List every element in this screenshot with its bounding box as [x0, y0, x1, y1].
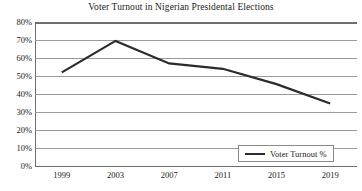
y-axis-tick-label: 30% — [1, 107, 32, 117]
x-axis-tick-label: 1999 — [53, 170, 70, 180]
y-axis-tick-label: 0% — [1, 161, 32, 171]
x-axis-tick-label: 2003 — [107, 170, 124, 180]
x-axis-tick-label: 2007 — [161, 170, 178, 180]
y-axis-tick-label: 50% — [1, 71, 32, 81]
y-axis-tick-labels: 80%70%60%50%40%30%20%10%0% — [0, 22, 32, 166]
x-axis-tick-label: 2011 — [214, 170, 231, 180]
chart-title: Voter Turnout in Nigerian Presidental El… — [0, 2, 362, 12]
x-axis-tick-label: 2019 — [322, 170, 339, 180]
y-axis-tick-label: 80% — [1, 17, 32, 27]
chart-container: Voter Turnout in Nigerian Presidental El… — [0, 0, 362, 191]
y-axis-tick-label: 70% — [1, 35, 32, 45]
y-axis-tick-label: 40% — [1, 89, 32, 99]
gridline — [35, 166, 357, 167]
x-axis-tick-labels: 199920032007201120152019 — [35, 170, 357, 184]
y-axis-tick-label: 20% — [1, 125, 32, 135]
legend-label: Voter Turnout % — [270, 149, 327, 159]
x-axis-tick-label: 2015 — [268, 170, 285, 180]
y-axis-tick-label: 10% — [1, 143, 32, 153]
legend-line-swatch — [245, 153, 265, 155]
y-axis-tick-label: 60% — [1, 53, 32, 63]
chart-legend: Voter Turnout % — [238, 145, 334, 162]
